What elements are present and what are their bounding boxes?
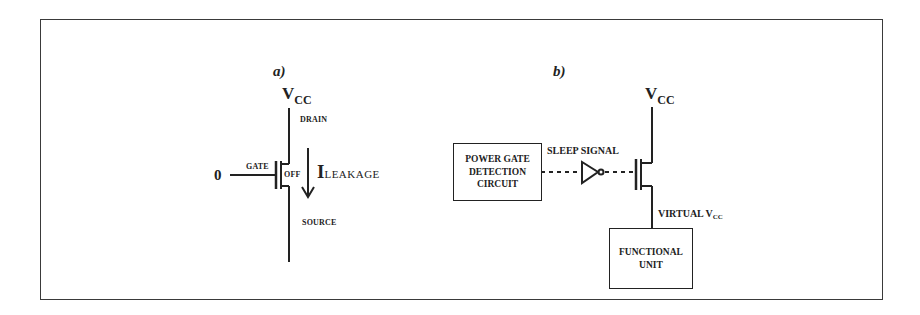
panel-b-label: b) [553, 64, 566, 79]
input-zero-label: 0 [214, 168, 222, 183]
vcc-label-a: VCC [282, 85, 312, 106]
inverter-bubble-icon [599, 170, 604, 175]
vcc-label-b: VCC [645, 85, 675, 106]
panel-a-label: a) [273, 64, 286, 79]
inverter-icon [582, 162, 598, 183]
gate-label: GATE [246, 163, 269, 171]
drain-label: DRAIN [300, 116, 327, 124]
sleep-signal-label: SLEEP SIGNAL [547, 146, 619, 156]
leakage-current-label: ILEAKAGE [317, 162, 380, 181]
source-label: SOURCE [302, 219, 337, 227]
virtual-vcc-label: VIRTUAL VCC [658, 209, 723, 221]
off-label: OFF [284, 171, 301, 179]
power-gate-detection-box: POWER GATEDETECTIONCIRCUIT [453, 143, 542, 201]
functional-unit-box: FUNCTIONALUNIT [609, 228, 693, 289]
